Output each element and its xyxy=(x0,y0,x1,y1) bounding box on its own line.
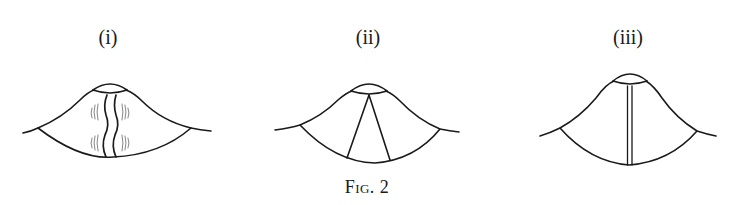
panel-ii-drawing xyxy=(275,84,459,163)
caption-number: 2 xyxy=(380,177,390,197)
panel-iii-drawing xyxy=(540,74,716,165)
panel-i-drawing xyxy=(23,84,211,157)
figure-diagram xyxy=(0,0,733,205)
figure-caption: Fig. 2 xyxy=(345,177,390,198)
caption-prefix: Fig. xyxy=(345,177,375,197)
